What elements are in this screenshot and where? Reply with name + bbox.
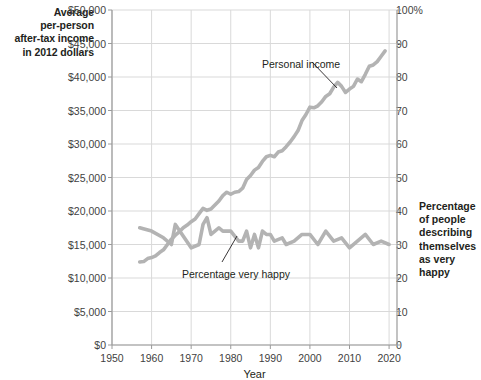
- gridlines: [112, 10, 397, 345]
- annotation-label: Percentage very happy: [182, 268, 290, 280]
- data-series: [140, 51, 389, 262]
- annotation-label: Personal income: [262, 58, 340, 70]
- leader-line: [222, 236, 237, 262]
- annotation-leader-lines: [222, 62, 337, 262]
